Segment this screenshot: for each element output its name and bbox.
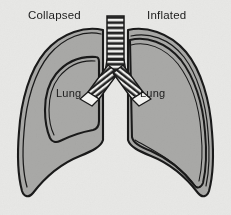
label-lung-right: Lung [140,87,165,99]
lung-diagram-svg [0,0,231,215]
label-lung-left: Lung [56,87,81,99]
lung-diagram-figure: Collapsed Inflated Lung Lung [0,0,231,215]
label-collapsed: Collapsed [28,9,81,21]
paper-grain-overlay [0,0,231,215]
label-inflated: Inflated [147,9,186,21]
